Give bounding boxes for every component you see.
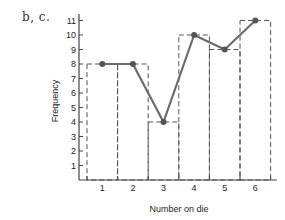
x-tick-label: 2 — [130, 183, 135, 193]
y-axis-ticks: 1234567891011 — [66, 16, 83, 171]
frequency-chart: 1234567891011 123456 Frequency Number on… — [0, 0, 285, 220]
y-tick-label: 5 — [71, 103, 76, 113]
data-point-marker — [161, 119, 167, 125]
y-tick-label: 11 — [67, 16, 76, 26]
y-tick-label: 10 — [66, 30, 76, 40]
y-tick-label: 4 — [71, 117, 76, 127]
data-point-marker — [222, 47, 228, 53]
histogram-bar — [179, 35, 210, 180]
histogram-bar — [209, 50, 240, 181]
y-axis-title: Frequency — [50, 79, 60, 122]
x-axis-title: Number on die — [149, 204, 208, 214]
data-point-marker — [130, 61, 136, 67]
data-point-marker — [191, 32, 197, 38]
x-tick-label: 6 — [253, 183, 258, 193]
x-tick-label: 1 — [100, 183, 105, 193]
y-tick-label: 8 — [71, 59, 76, 69]
x-tick-label: 4 — [192, 183, 197, 193]
y-tick-label: 7 — [71, 74, 76, 84]
y-tick-label: 9 — [71, 45, 76, 55]
data-point-marker — [252, 18, 258, 24]
histogram-bar — [148, 122, 179, 180]
histogram-bar — [87, 64, 118, 180]
x-axis-ticks: 123456 — [87, 176, 271, 193]
histogram-bar — [118, 64, 149, 180]
y-tick-label: 3 — [71, 132, 76, 142]
x-tick-label: 3 — [161, 183, 166, 193]
y-tick-label: 1 — [71, 161, 76, 171]
histogram-bars — [87, 21, 271, 181]
histogram-bar — [240, 21, 271, 181]
data-point-marker — [99, 61, 105, 67]
axes — [79, 14, 277, 180]
x-tick-label: 5 — [222, 183, 227, 193]
y-tick-label: 6 — [71, 88, 76, 98]
y-tick-label: 2 — [71, 146, 76, 156]
